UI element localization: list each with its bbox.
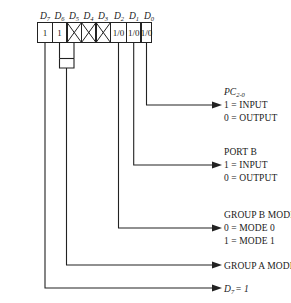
header-D1: D1 — [128, 11, 139, 22]
callout-group-b-mode: GROUP B MODE 0 = MODE 0 1 = MODE 1 — [224, 210, 291, 246]
crossed-cell-D5 — [67, 23, 82, 43]
arrowhead-d7 — [212, 284, 222, 291]
arrowhead-pc20 — [212, 101, 222, 108]
callout-pc20-line-0: 1 = INPUT — [224, 100, 268, 110]
header-D7: D7 — [39, 11, 51, 22]
callout-pc20-heading: PC2-0 — [223, 87, 246, 98]
header-D6: D6 — [53, 11, 65, 22]
callout-group-a-mode-2-line-0: GROUP A MODE 2 — [224, 261, 291, 271]
arrowheads — [212, 101, 222, 291]
cell-value-D1: 1/0 — [128, 28, 140, 38]
callout-pc20: PC2-0 1 = INPUT 0 = OUTPUT — [223, 87, 277, 123]
callout-group-b-mode-line-1: 1 = MODE 1 — [224, 236, 275, 246]
header-D2: D2 — [113, 11, 125, 22]
crossed-cells — [67, 23, 111, 43]
callout-group-b-mode-line-0: 0 = MODE 0 — [224, 223, 275, 233]
callout-group-b-mode-heading: GROUP B MODE — [224, 210, 291, 220]
header-D0: D0 — [143, 11, 155, 22]
header-D3: D3 — [97, 11, 109, 22]
leader-group-a-mode-2 — [67, 68, 215, 265]
callout-group-a-mode-2: GROUP A MODE 2 — [224, 261, 291, 271]
crossed-cell-D4 — [82, 23, 97, 43]
callout-port-b-line-1: 0 = OUTPUT — [224, 173, 277, 183]
cell-value-D0: 1/0 — [141, 28, 153, 38]
arrowhead-port-b — [212, 161, 222, 168]
callout-port-b: PORT B 1 = INPUT 0 = OUTPUT — [224, 147, 277, 183]
callout-d7-equals-1: D7= 1 — [223, 284, 249, 295]
callout-pc20-line-1: 0 = OUTPUT — [224, 113, 277, 123]
arrowhead-group-b-mode — [212, 224, 222, 231]
control-word-diagram: D7 D6 D5 D4 D3 D2 D1 D0 1 — [0, 0, 291, 303]
leader-group-b-mode — [119, 43, 215, 228]
cell-value-D7: 1 — [43, 28, 48, 38]
header-D5: D5 — [68, 11, 80, 22]
crossed-cell-D3 — [96, 23, 111, 43]
bitfield-values: 1 1 1/0 1/0 1/0 — [43, 28, 153, 38]
cell-value-D2: 1/0 — [113, 28, 125, 38]
cell-value-D6: 1 — [57, 28, 62, 38]
leader-lines — [45, 43, 214, 288]
leader-pc20 — [147, 43, 215, 105]
bracket-D6-D5-box — [60, 59, 75, 69]
leader-port-b — [134, 43, 214, 165]
arrowhead-group-a-mode-2 — [212, 261, 222, 268]
callout-d7-equals-1-line-0: D7= 1 — [223, 284, 249, 295]
header-D4: D4 — [82, 11, 94, 22]
callout-port-b-heading: PORT B — [224, 147, 257, 157]
callout-port-b-line-0: 1 = INPUT — [224, 160, 268, 170]
bitfield-headers: D7 D6 D5 D4 D3 D2 D1 D0 — [39, 11, 155, 22]
